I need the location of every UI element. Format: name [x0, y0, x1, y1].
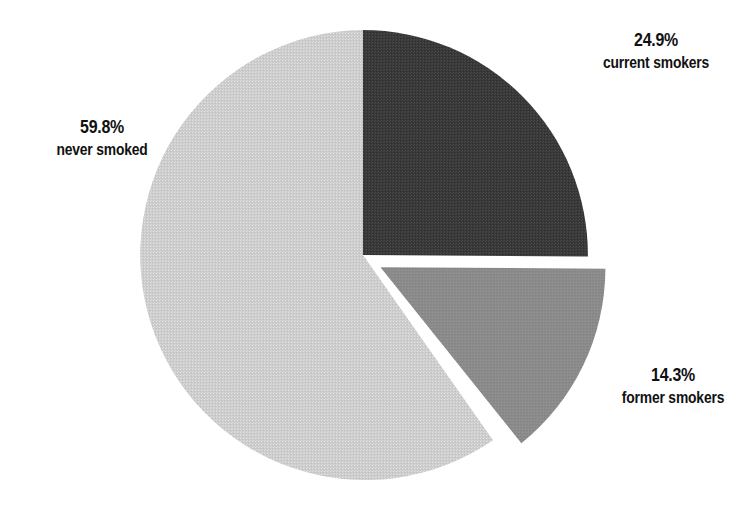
slice-percent-never-smoked: 59.8%	[26, 116, 177, 138]
slice-description-current-smokers: current smokers	[580, 53, 731, 72]
slice-description-former-smokers: former smokers	[612, 388, 735, 407]
slice-label-current-smokers: 24.9% current smokers	[566, 29, 746, 73]
slice-percent-former-smokers: 14.3%	[612, 364, 735, 386]
slice-label-former-smokers: 14.3% former smokers	[600, 364, 746, 408]
slice-percent-current-smokers: 24.9%	[580, 29, 731, 51]
pie-chart: 24.9% current smokers 59.8% never smoked…	[0, 0, 746, 510]
pie-chart-canvas	[0, 0, 746, 510]
slice-description-never-smoked: never smoked	[26, 140, 177, 159]
slice-label-never-smoked: 59.8% never smoked	[12, 116, 192, 160]
